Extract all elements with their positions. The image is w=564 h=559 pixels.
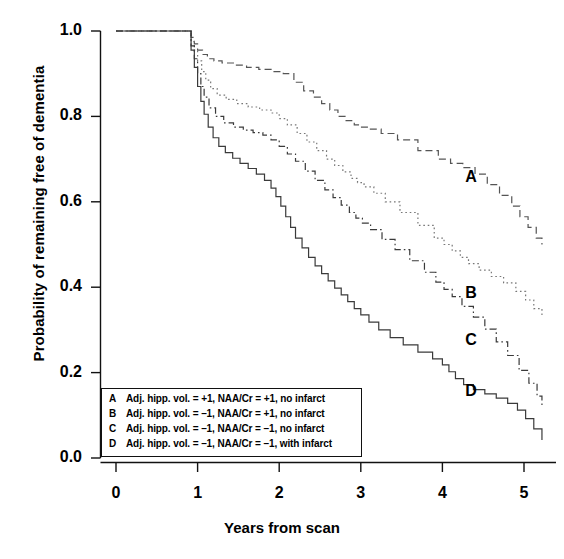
y-tick-label: 0.6 <box>26 192 82 210</box>
y-tick-label: 1.0 <box>26 21 82 39</box>
x-axis-title: Years from scan <box>0 519 564 536</box>
y-tick-label: 0.0 <box>26 448 82 466</box>
y-tick-label: 0.4 <box>26 277 82 295</box>
x-tick-label: 0 <box>101 484 131 502</box>
legend-key: B <box>109 408 126 419</box>
curve-label-B: B <box>461 284 481 302</box>
x-tick-label: 4 <box>427 484 457 502</box>
legend-item: A Adj. hipp. vol. = +1, NAA/Cr = +1, no … <box>102 393 361 408</box>
curve-A <box>116 31 542 245</box>
y-tick-label: 0.8 <box>26 106 82 124</box>
x-tick-label: 1 <box>183 484 213 502</box>
legend-key: D <box>109 438 126 449</box>
survival-curve-figure: Probability of remaining free of dementi… <box>0 0 564 559</box>
legend: A Adj. hipp. vol. = +1, NAA/Cr = +1, no … <box>101 388 362 457</box>
legend-key: C <box>109 423 126 434</box>
x-tick-label: 5 <box>509 484 539 502</box>
y-tick-label: 0.2 <box>26 363 82 381</box>
legend-label: Adj. hipp. vol. = +1, NAA/Cr = +1, no in… <box>126 393 325 404</box>
legend-item: B Adj. hipp. vol. = –1, NAA/Cr = +1, no … <box>102 408 361 423</box>
legend-label: Adj. hipp. vol. = –1, NAA/Cr = –1, no in… <box>126 423 324 434</box>
curve-label-A: A <box>461 168 481 186</box>
x-tick-label: 3 <box>346 484 376 502</box>
legend-key: A <box>109 393 126 404</box>
curve-label-C: C <box>461 331 481 349</box>
y-axis-title: Probability of remaining free of dementi… <box>30 24 47 404</box>
x-tick-label: 2 <box>264 484 294 502</box>
curve-label-D: D <box>461 382 481 400</box>
curve-C <box>116 31 542 407</box>
curve-paths <box>116 31 542 440</box>
legend-label: Adj. hipp. vol. = –1, NAA/Cr = –1, with … <box>126 438 332 449</box>
legend-label: Adj. hipp. vol. = –1, NAA/Cr = +1, no in… <box>126 408 325 419</box>
legend-item: D Adj. hipp. vol. = –1, NAA/Cr = –1, wit… <box>102 438 361 453</box>
plot-area <box>0 0 564 559</box>
curve-D <box>116 31 542 440</box>
legend-item: C Adj. hipp. vol. = –1, NAA/Cr = –1, no … <box>102 423 361 438</box>
